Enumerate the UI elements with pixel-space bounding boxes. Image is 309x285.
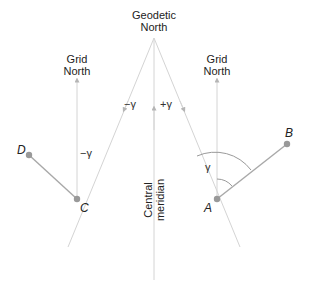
segment-ab <box>217 144 287 199</box>
grid-north-right-label: Grid North <box>197 53 237 77</box>
central-meridian-line1: Central <box>142 164 154 236</box>
geodetic-north-line1: Geodetic <box>124 9 184 21</box>
grid-north-left-label: Grid North <box>57 53 97 77</box>
central-meridian-line2: meridian <box>154 164 166 236</box>
gamma-right-label: γ <box>205 161 211 173</box>
bearing-arc-inner <box>217 179 232 186</box>
diagram-canvas <box>0 0 309 285</box>
point-d <box>26 152 32 158</box>
minus-gamma-left-label: −γ <box>80 147 92 159</box>
point-label-d: D <box>17 143 26 157</box>
central-meridian-label: Central meridian <box>142 164 166 236</box>
point-a <box>214 196 220 202</box>
convergence-diagram: Geodetic North Grid North Grid North −γ … <box>0 0 309 285</box>
grid-north-left-line1: Grid <box>57 53 97 65</box>
grid-north-left-line2: North <box>57 65 97 77</box>
point-label-b: B <box>285 126 293 140</box>
minus-gamma-center-label: −γ <box>124 98 136 110</box>
point-label-c: C <box>80 201 89 215</box>
point-b <box>284 141 290 147</box>
grid-north-right-line2: North <box>197 65 237 77</box>
geodetic-north-label: Geodetic North <box>124 9 184 33</box>
grid-north-right-line1: Grid <box>197 53 237 65</box>
geodetic-north-line2: North <box>124 21 184 33</box>
point-label-a: A <box>204 201 212 215</box>
segment-cd <box>29 155 77 199</box>
plus-gamma-center-label: +γ <box>160 98 172 110</box>
